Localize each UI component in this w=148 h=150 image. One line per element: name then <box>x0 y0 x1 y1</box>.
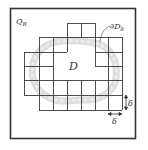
domain-label: D <box>68 60 78 73</box>
boundary-leader-line <box>100 26 110 42</box>
horizontal-cell-size-arrow <box>108 113 122 116</box>
horizontal-cell-size-label: δ <box>112 117 117 126</box>
boundary-cover-diagram: QR D ∂Dδ δ δ <box>0 0 148 150</box>
vertical-cell-size-label: δ <box>128 99 133 108</box>
outer-square-label: QR <box>16 17 27 27</box>
boundary-label: ∂Dδ <box>110 22 125 32</box>
